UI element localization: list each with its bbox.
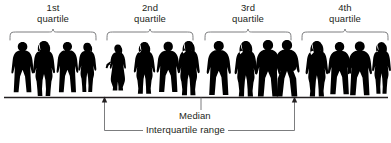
- annotation-layer: [0, 0, 391, 143]
- median-label: Median: [176, 110, 214, 121]
- quartile-diagram: 1st quartile 2nd quartile 3rd quartile 4…: [0, 0, 391, 143]
- interquartile-range-label: Interquartile range: [143, 124, 228, 135]
